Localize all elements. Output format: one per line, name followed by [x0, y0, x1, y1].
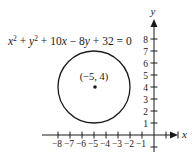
x-tick-label: −7 — [64, 139, 74, 149]
center-label: (−5, 4) — [80, 71, 109, 83]
x-tick-label: −3 — [112, 139, 122, 149]
y-tick-label: 7 — [143, 47, 148, 57]
y-tick-label: 2 — [143, 107, 148, 117]
x-tick-label: −1 — [136, 139, 146, 149]
y-tick-label: 6 — [143, 59, 148, 69]
y-tick-label: 5 — [143, 71, 148, 81]
x-tick-label: −2 — [124, 139, 134, 149]
y-axis-label: y — [150, 5, 156, 17]
x-tick-label: −6 — [76, 139, 86, 149]
circle-graph: −8−7−6−5−4−3−2−112345678 x y (−5, 4) x2 … — [0, 0, 192, 163]
x-axis-arrow — [170, 132, 178, 139]
x-tick-label: −5 — [88, 139, 98, 149]
x-axis-label: x — [181, 128, 187, 140]
y-tick-label: 4 — [143, 83, 148, 93]
center-point — [93, 85, 97, 89]
circle-equation: x2 + y2 + 10x − 8y + 32 = 0 — [7, 34, 132, 49]
y-tick-label: 8 — [143, 35, 148, 45]
x-tick-label: −8 — [52, 139, 62, 149]
y-tick-label: 1 — [143, 119, 148, 129]
x-tick-label: −4 — [100, 139, 110, 149]
y-tick-label: 3 — [143, 95, 148, 105]
y-axis-arrow — [151, 19, 158, 27]
